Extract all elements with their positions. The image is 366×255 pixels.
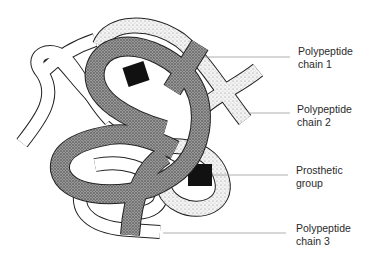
label-line: Polypeptide bbox=[297, 103, 352, 116]
label-line: chain 2 bbox=[297, 116, 352, 129]
label-line: Prosthetic bbox=[296, 164, 343, 177]
label-polypeptide-chain-3: Polypeptide chain 3 bbox=[296, 222, 351, 247]
label-prosthetic-group: Prosthetic group bbox=[296, 164, 343, 189]
label-line: chain 3 bbox=[296, 235, 351, 248]
label-line: chain 1 bbox=[298, 58, 353, 71]
label-polypeptide-chain-1: Polypeptide chain 1 bbox=[298, 45, 353, 70]
label-line: Polypeptide bbox=[296, 222, 351, 235]
label-polypeptide-chain-2: Polypeptide chain 2 bbox=[297, 103, 352, 128]
label-line: Polypeptide bbox=[298, 45, 353, 58]
prosthetic-group-upper bbox=[122, 61, 149, 87]
label-line: group bbox=[296, 177, 343, 190]
